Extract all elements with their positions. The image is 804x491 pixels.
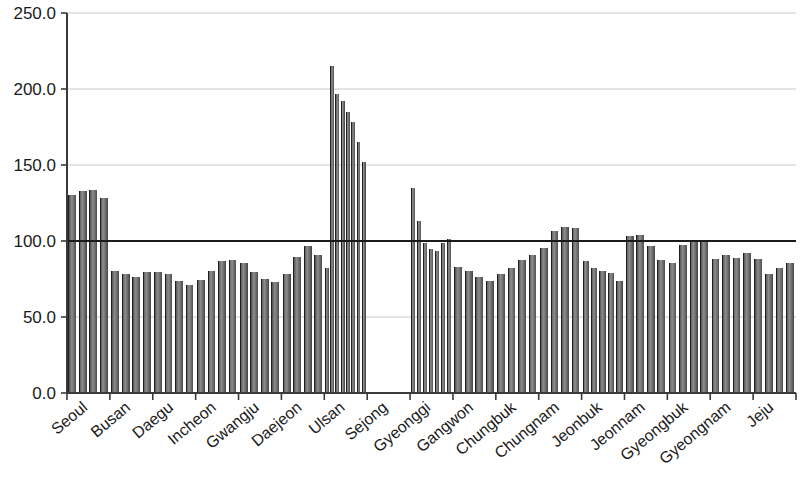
bar — [657, 260, 665, 393]
bar — [261, 279, 269, 393]
bar — [786, 263, 794, 393]
y-tick-label: 200.0 — [13, 80, 56, 99]
bar-edge — [722, 255, 723, 393]
bar — [154, 272, 162, 393]
bar-edge — [475, 277, 476, 393]
bar-edge — [508, 268, 509, 393]
bar-edge — [700, 241, 701, 393]
bar — [283, 274, 291, 393]
bar-edge — [143, 272, 144, 393]
bar-edge — [429, 249, 430, 393]
bar — [508, 268, 516, 393]
bar — [143, 272, 151, 393]
bar — [68, 195, 76, 393]
bar-edge — [314, 255, 315, 393]
bar-edge — [79, 191, 80, 393]
bar-edge — [435, 251, 436, 393]
bar-edge — [417, 221, 418, 393]
bar-edge — [454, 267, 455, 393]
bar-edge — [330, 66, 331, 393]
bar — [186, 285, 194, 393]
bar-edge — [111, 271, 112, 393]
bar — [132, 277, 140, 393]
bar-edge — [441, 243, 442, 393]
bar-edge — [357, 142, 358, 393]
bar-edge — [261, 279, 262, 393]
bar-edge — [325, 268, 326, 393]
bar-edge — [626, 236, 627, 393]
bar — [293, 257, 301, 393]
bar-edge — [335, 94, 336, 393]
bar — [765, 274, 773, 393]
bar-edge — [551, 231, 552, 393]
bar — [208, 271, 216, 393]
bar-edge — [712, 259, 713, 393]
bar-edge — [690, 242, 691, 393]
x-tick-label-busan: Busan — [88, 398, 134, 440]
bar — [271, 282, 279, 393]
bar — [475, 277, 483, 393]
bar-edge — [765, 274, 766, 393]
bar — [314, 255, 322, 393]
bar — [754, 259, 762, 393]
bar-edge — [250, 272, 251, 393]
bar — [700, 241, 708, 393]
bar-edge — [743, 253, 744, 393]
bar-edge — [351, 122, 352, 393]
bar-edge — [599, 271, 600, 393]
bar-edge — [68, 195, 69, 393]
bar — [636, 235, 644, 393]
bar-edge — [583, 261, 584, 393]
bar — [529, 255, 537, 393]
bar — [551, 231, 559, 393]
bar-edge — [754, 259, 755, 393]
bar — [165, 274, 173, 393]
bar-edge — [165, 274, 166, 393]
bar-edge — [346, 112, 347, 393]
bar-edge — [679, 245, 680, 393]
bar — [776, 268, 784, 393]
bar-edge — [132, 277, 133, 393]
bar — [229, 260, 237, 393]
y-axis-tick-labels: 0.050.0100.0150.0200.0250.0 — [13, 4, 56, 403]
bar — [733, 258, 741, 393]
bar-edge — [208, 271, 209, 393]
bar — [722, 255, 730, 393]
bar-edge — [293, 257, 294, 393]
x-axis-tick-labels: SeoulBusanDaeguIncheonGwangjuDaejeonUlsa… — [48, 398, 776, 468]
bar-edge — [89, 190, 90, 393]
bar — [669, 263, 677, 393]
bar-edge — [647, 246, 648, 393]
bar-edge — [518, 260, 519, 393]
bar-edge — [669, 263, 670, 393]
chart-canvas: 0.050.0100.0150.0200.0250.0 SeoulBusanDa… — [0, 0, 804, 491]
bar-edge — [304, 246, 305, 393]
bar — [89, 190, 97, 393]
bar — [518, 260, 526, 393]
bar — [240, 263, 248, 393]
bar — [486, 281, 494, 393]
bar-edge — [776, 268, 777, 393]
bar — [111, 271, 119, 393]
bar-edge — [100, 198, 101, 393]
bar — [647, 246, 655, 393]
bar-edge — [283, 274, 284, 393]
bar — [465, 271, 473, 393]
bar-edge — [411, 188, 412, 393]
bar-edge — [465, 271, 466, 393]
bar — [175, 281, 183, 393]
bar-chart-figure: 0.050.0100.0150.0200.0250.0 SeoulBusanDa… — [0, 0, 804, 491]
bar — [197, 280, 205, 393]
bar-edge — [122, 274, 123, 393]
bar — [712, 259, 720, 393]
bar-edge — [186, 285, 187, 393]
bar — [497, 274, 505, 393]
bar-edge — [229, 260, 230, 393]
bar — [690, 242, 698, 393]
bar-edge — [733, 258, 734, 393]
bar-edge — [486, 281, 487, 393]
bar-edge — [362, 162, 363, 393]
y-tick-label: 250.0 — [13, 4, 56, 23]
bar-edge — [175, 281, 176, 393]
bar-edge — [529, 255, 530, 393]
